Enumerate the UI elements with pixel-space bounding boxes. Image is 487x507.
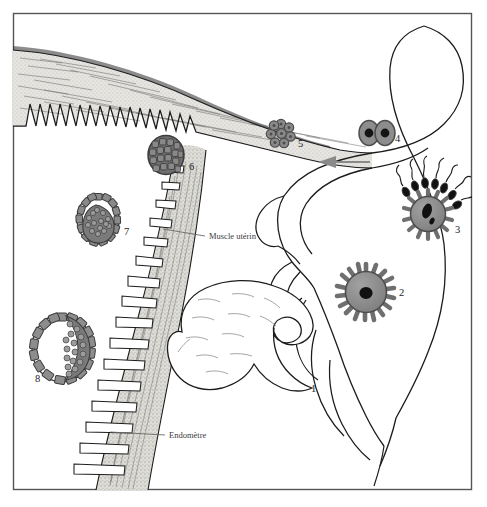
fertilization-diagram: Muscle utérin Endomètre 1 2 3 4 5 6 7 8: [0, 0, 487, 507]
stage-number-2: 2: [399, 287, 404, 298]
annotation-label: Muscle utérin: [209, 231, 257, 241]
late-morula-stage-6: [148, 136, 184, 175]
stage-number-5: 5: [298, 138, 303, 149]
stage-number-1: 1: [311, 383, 316, 394]
blastocyst-stage-7: [76, 193, 121, 247]
stage-number-6: 6: [189, 161, 194, 172]
stage-number-7: 7: [124, 226, 129, 237]
stage-number-3: 3: [455, 224, 460, 235]
stage-number-8: 8: [35, 373, 40, 384]
annotation-label: Endomètre: [169, 430, 207, 440]
two-cell-embryo-stage-4: [359, 121, 395, 146]
oocyte-nucleus: [359, 287, 372, 299]
stage-number-4: 4: [395, 133, 401, 144]
